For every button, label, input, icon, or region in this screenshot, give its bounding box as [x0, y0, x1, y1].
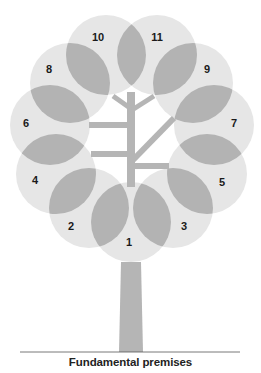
- leaf-label-8: 8: [46, 63, 52, 75]
- leaf-label-1: 1: [126, 236, 132, 248]
- premises-tree-diagram: 1234567891011: [0, 0, 261, 373]
- branch-top-right: [132, 96, 154, 110]
- branch-right-lower: [133, 163, 169, 169]
- leaf-label-10: 10: [92, 31, 104, 43]
- leaf-label-5: 5: [219, 176, 225, 188]
- leaf-label-7: 7: [231, 117, 237, 129]
- leaf-label-4: 4: [32, 174, 39, 186]
- leaf-label-2: 2: [68, 220, 74, 232]
- branch-left-upper: [89, 122, 129, 128]
- tree-trunk: [119, 262, 143, 352]
- branch-left-lower: [91, 151, 129, 157]
- leaf-label-11: 11: [151, 31, 163, 43]
- leaf-label-6: 6: [23, 117, 29, 129]
- branch-right-diagonal: [133, 118, 174, 160]
- leaf-label-3: 3: [181, 220, 187, 232]
- leaf-label-9: 9: [204, 63, 210, 75]
- diagram-caption: Fundamental premises: [0, 356, 261, 368]
